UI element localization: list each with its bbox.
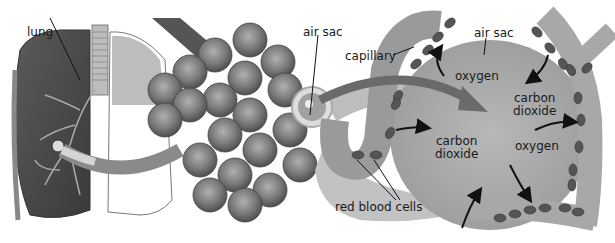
label-capillary: capillary [345, 50, 396, 63]
gas-exchange-diagram: lung air sac capillary air sac oxygen ca… [0, 0, 615, 243]
alveoli-cluster [148, 18, 317, 222]
label-oxygen-right: oxygen [515, 140, 559, 153]
label-line: dioxide [513, 105, 556, 118]
label-oxygen-top: oxygen [455, 70, 499, 83]
label-red-blood-cells: red blood cells [335, 201, 422, 214]
label-line: dioxide [435, 148, 478, 161]
label-carbon-dioxide-center: carbon dioxide [435, 135, 478, 161]
label-lung: lung [27, 26, 53, 39]
label-carbon-dioxide-right: carbon dioxide [513, 92, 556, 118]
label-air-sac-left: air sac [303, 26, 343, 39]
label-air-sac-right: air sac [474, 27, 514, 40]
